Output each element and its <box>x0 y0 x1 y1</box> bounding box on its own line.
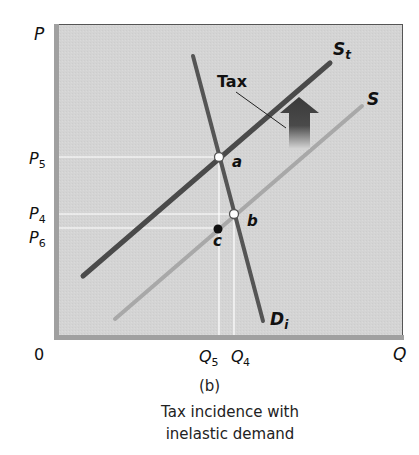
tick-q4: Q.4 <box>231 347 250 369</box>
figure-caption: Tax incidence with inelastic demand <box>130 401 330 445</box>
tax-incidence-figure: P 0 Q P5 P4 P6 Q5 Q.4 St S Di Tax a b c … <box>0 0 419 455</box>
tick-p6: P6 <box>29 228 46 250</box>
label-point-b: b <box>247 212 258 230</box>
y-axis-label: P <box>34 24 45 44</box>
label-point-c: c <box>213 232 222 250</box>
y-tick-labels: P5 P4 P6 <box>29 149 46 250</box>
label-s: S <box>367 89 379 109</box>
point-b <box>230 210 239 219</box>
label-point-a: a <box>232 153 242 171</box>
label-tax: Tax <box>217 72 248 91</box>
x-axis <box>54 335 404 340</box>
plot-area <box>57 24 403 337</box>
y-axis <box>54 24 59 340</box>
tick-q5: Q5 <box>199 347 219 369</box>
x-axis-label: Q <box>393 344 406 364</box>
panel-label: (b) <box>0 377 419 395</box>
x-tick-labels: Q5 Q.4 <box>199 347 250 369</box>
tick-p5: P5 <box>29 149 46 171</box>
tick-p4: P4 <box>29 204 46 226</box>
origin-label: 0 <box>34 345 44 364</box>
point-a <box>215 153 224 162</box>
